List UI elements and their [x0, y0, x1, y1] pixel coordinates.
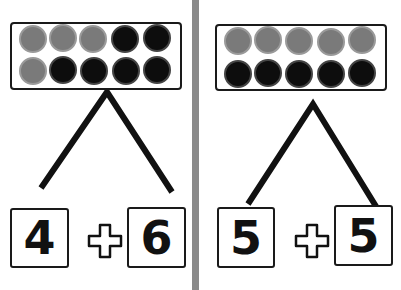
counter-top-3 — [79, 25, 107, 53]
plus-icon — [294, 223, 330, 259]
counter-bottom-5 — [143, 56, 171, 84]
counter-top-5 — [348, 26, 376, 54]
counter-bottom-4 — [112, 57, 140, 85]
counter-top-2 — [254, 26, 282, 54]
counter-bottom-2 — [254, 59, 282, 87]
counter-bottom-5 — [348, 59, 376, 87]
counter-top-1 — [224, 27, 252, 55]
addend-box-right: 5 — [334, 205, 393, 266]
counter-top-4 — [317, 28, 345, 56]
addend-box-left: 4 — [10, 208, 69, 268]
counter-top-1 — [19, 25, 47, 53]
counter-bottom-1 — [224, 60, 252, 88]
counter-top-5 — [143, 24, 171, 52]
counter-bottom-3 — [80, 57, 108, 85]
counter-top-3 — [285, 27, 313, 55]
addend-box-right: 6 — [127, 207, 186, 268]
counter-bottom-2 — [49, 56, 77, 84]
counter-bottom-3 — [285, 60, 313, 88]
right-panel: 5 5 — [199, 0, 401, 290]
counter-bottom-1 — [19, 57, 47, 85]
panel-divider — [192, 0, 199, 290]
left-panel: 4 6 — [0, 0, 192, 290]
addend-box-left: 5 — [217, 207, 275, 268]
counter-top-4 — [111, 25, 139, 53]
plus-icon — [87, 223, 123, 259]
counter-bottom-4 — [317, 60, 345, 88]
counter-top-2 — [49, 24, 77, 52]
